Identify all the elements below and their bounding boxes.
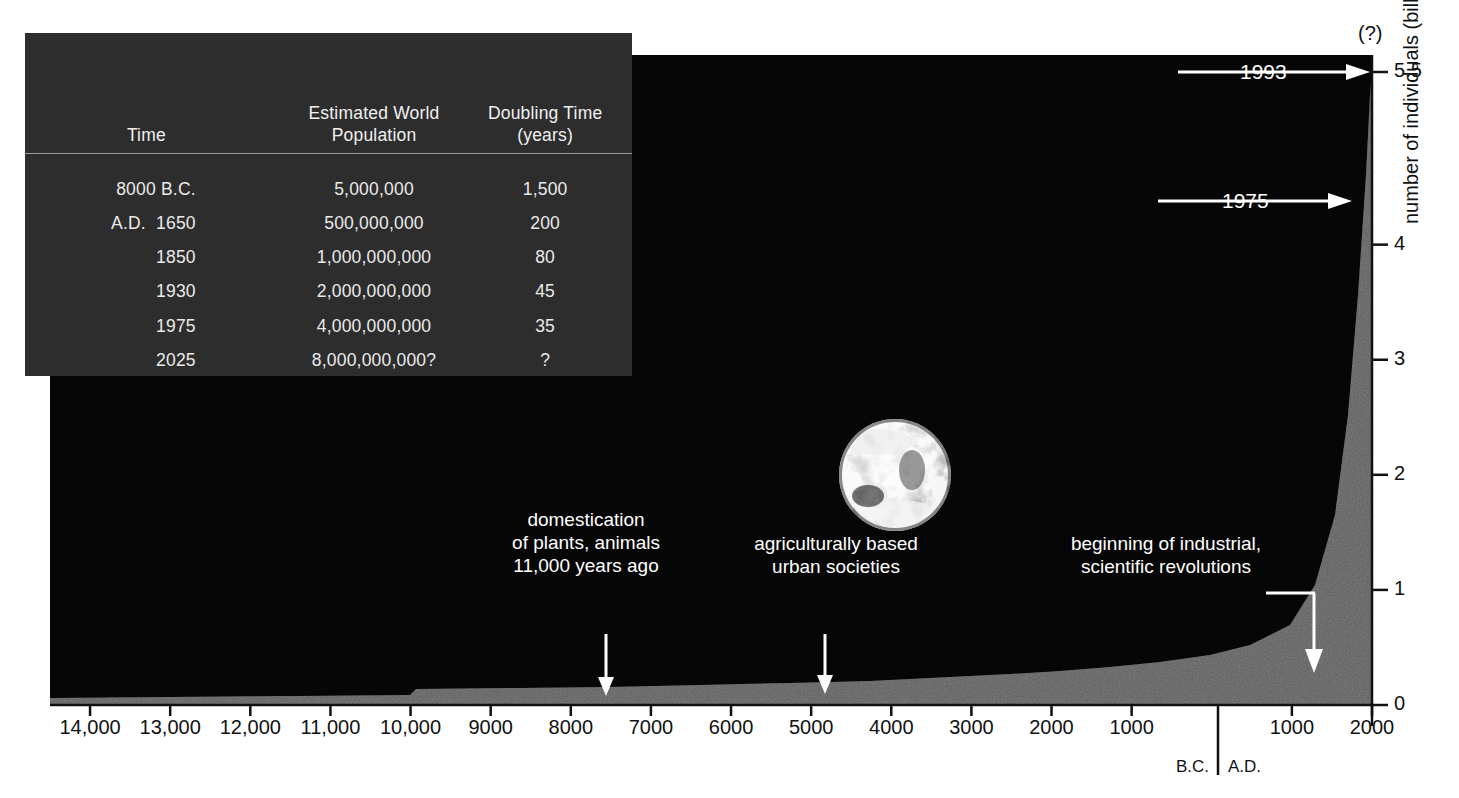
column-header-doubling-line2: (years) [480,124,610,146]
marker-label-1993: 1993 [1240,60,1287,84]
cell-time: 8000 B.C. [25,153,268,206]
x-axis-tick-label: 10,000 [380,716,441,739]
table-header-row: Time Estimated World Population Doubling… [25,33,632,153]
y-axis-tick-label: 2 [1394,462,1405,485]
x-axis-tick-label: 3000 [949,716,994,739]
cell-time: A.D. 1650 [25,206,268,240]
x-axis-tick-label: 2000 [1029,716,1074,739]
cell-time: 1930 [25,274,268,308]
cell-time: 2025 [25,343,268,377]
annotation-domestication: domestication of plants, animals 11,000 … [486,508,686,578]
era-label-bc: B.C. [1176,757,1209,777]
x-axis-tick-label: 5000 [789,716,834,739]
cell-time: 1975 [25,309,268,343]
cell-doubling-time: ? [480,343,632,377]
x-axis-tick-label: 8000 [549,716,594,739]
cell-doubling-time: 80 [480,240,632,274]
column-header-doubling-time: Doubling Time (years) [480,33,632,153]
table-row: 19754,000,000,00035 [25,309,632,343]
table-row: 8000 B.C.5,000,0001,500 [25,153,632,206]
uncertainty-label: (?) [1358,22,1382,45]
x-axis-tick-label: 1000 [1270,716,1315,739]
table-row: 18501,000,000,00080 [25,240,632,274]
cell-time: 1850 [25,240,268,274]
table-header: Time Estimated World Population Doubling… [25,33,632,153]
cell-doubling-time: 45 [480,274,632,308]
cell-population: 5,000,000 [268,153,480,206]
column-header-population-line1: Estimated World [268,102,480,124]
annotation-urban-societies: agriculturally based urban societies [716,532,956,578]
y-axis-tick-label: 0 [1394,692,1405,715]
x-axis-tick-label: 9000 [468,716,513,739]
table-row: 19302,000,000,00045 [25,274,632,308]
table-row: A.D. 1650500,000,000200 [25,206,632,240]
y-axis-tick-label: 4 [1394,232,1405,255]
y-axis-ticks [1372,72,1388,705]
x-axis-tick-label: 4000 [869,716,914,739]
x-axis-tick-label: 6000 [709,716,754,739]
y-axis-title: number of individuals (billions) [1400,200,1423,224]
era-label-ad: A.D. [1228,757,1261,777]
cell-population: 1,000,000,000 [268,240,480,274]
cell-doubling-time: 200 [480,206,632,240]
y-axis-tick-label: 1 [1394,577,1405,600]
column-header-time-label: Time [25,124,268,146]
x-axis-tick-label: 7000 [629,716,674,739]
world-population-table: Time Estimated World Population Doubling… [25,33,632,376]
table: Time Estimated World Population Doubling… [25,33,632,377]
cell-population: 8,000,000,000? [268,343,480,377]
marker-label-1975: 1975 [1222,189,1269,213]
cell-doubling-time: 1,500 [480,153,632,206]
earth-photo [838,418,952,532]
x-axis-ticks [90,705,1372,716]
cell-population: 2,000,000,000 [268,274,480,308]
x-axis-tick-label: 12,000 [220,716,281,739]
y-axis-tick-label: 3 [1394,347,1405,370]
x-axis-tick-label: 14,000 [59,716,120,739]
column-header-population: Estimated World Population [268,33,480,153]
x-axis-tick-label: 1000 [1109,716,1154,739]
x-axis-tick-label: 13,000 [140,716,201,739]
cell-doubling-time: 35 [480,309,632,343]
column-header-doubling-line1: Doubling Time [480,102,610,124]
x-axis-tick-label: 11,000 [301,716,361,739]
column-header-time: Time [25,33,268,153]
cell-population: 500,000,000 [268,206,480,240]
table-row: 20258,000,000,000?? [25,343,632,377]
earth-globe-icon [838,418,952,532]
cell-population: 4,000,000,000 [268,309,480,343]
table-body: 8000 B.C.5,000,0001,500A.D. 1650500,000,… [25,153,632,377]
x-axis-tick-label: 2000 [1350,716,1395,739]
annotation-industrial-revolution: beginning of industrial, scientific revo… [1066,532,1266,578]
column-header-population-line2: Population [268,124,480,146]
